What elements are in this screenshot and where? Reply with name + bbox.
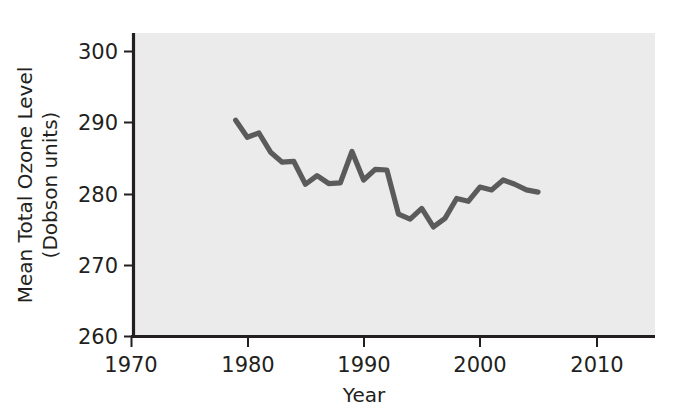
- x-tick-label-1990: 1990: [337, 353, 390, 377]
- y-tick-label-300: 300: [78, 40, 118, 64]
- y-tick-marks: [124, 52, 133, 337]
- y-tick-label-290: 290: [78, 111, 118, 135]
- ozone-line-chart: 300 290 280 270 260 1970 1980 1990 2000 …: [0, 0, 675, 419]
- y-axis-title-line2: (Dobson units): [38, 112, 62, 259]
- x-tick-label-1980: 1980: [221, 353, 274, 377]
- chart-figure: 300 290 280 270 260 1970 1980 1990 2000 …: [0, 0, 675, 419]
- x-tick-label-2010: 2010: [570, 353, 623, 377]
- y-tick-label-280: 280: [78, 183, 118, 207]
- y-tick-label-260: 260: [78, 325, 118, 349]
- x-axis-title: Year: [342, 383, 386, 407]
- plot-area-background: [133, 33, 655, 336]
- x-tick-label-2000: 2000: [453, 353, 506, 377]
- x-tick-label-1970: 1970: [104, 353, 157, 377]
- y-tick-label-270: 270: [78, 254, 118, 278]
- y-axis-title-line1: Mean Total Ozone Level: [13, 67, 37, 304]
